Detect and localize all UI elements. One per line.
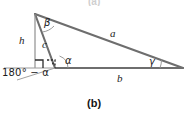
label-angle-gamma: γ: [149, 57, 155, 67]
label-side-b: b: [117, 73, 123, 84]
figure-container: (a) h c a b β α γ 180° − α (b): [0, 0, 189, 114]
figure-caption: (b): [87, 98, 101, 109]
label-angle-alpha: α: [65, 56, 72, 66]
label-angle-beta: β: [44, 18, 50, 28]
label-side-c: c: [42, 39, 47, 50]
label-side-a: a: [110, 28, 116, 39]
label-exterior-angle: 180° − α: [2, 68, 49, 78]
right-angle-dot: [52, 63, 54, 65]
side-a-line: [35, 14, 183, 68]
triangle-outline: [35, 14, 183, 68]
label-height-h: h: [19, 35, 25, 46]
